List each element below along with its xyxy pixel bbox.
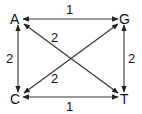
weight-a-t: 2: [51, 30, 58, 45]
node-g: G: [119, 11, 130, 27]
node-a: A: [10, 11, 20, 27]
weight-c-t: 1: [66, 99, 73, 114]
weight-a-g: 1: [66, 2, 73, 17]
weight-g-t: 2: [128, 51, 135, 66]
weight-c-g: 2: [51, 71, 58, 86]
weight-a-c: 2: [6, 51, 13, 66]
graph-diagram: A G C T 1 1 2 2 2 2: [0, 0, 142, 114]
node-c: C: [10, 91, 20, 107]
node-t: T: [120, 91, 129, 107]
